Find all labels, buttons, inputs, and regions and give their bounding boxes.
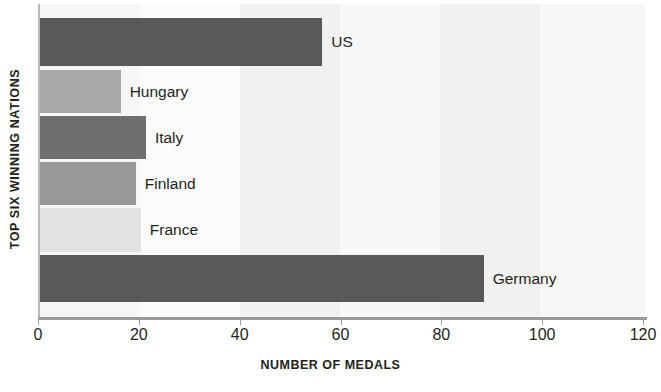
- bar-us[interactable]: [40, 18, 322, 66]
- x-tick-label: 60: [332, 326, 350, 344]
- bar-label-italy: Italy: [155, 129, 183, 147]
- x-tick-mark: [38, 317, 39, 325]
- bar-row: France: [40, 208, 645, 252]
- bar-label-hungary: Hungary: [130, 83, 189, 101]
- bar-france[interactable]: [40, 208, 141, 252]
- x-tick-mark: [643, 317, 644, 325]
- bar-row: Germany: [40, 255, 645, 302]
- x-tick-mark: [441, 317, 442, 325]
- bar-italy[interactable]: [40, 116, 146, 159]
- x-tick-mark: [542, 317, 543, 325]
- bar-row: US: [40, 18, 645, 66]
- bar-row: Italy: [40, 116, 645, 159]
- x-tick-label: 80: [432, 326, 450, 344]
- bar-label-finland: Finland: [145, 175, 196, 193]
- bar-row: Hungary: [40, 70, 645, 113]
- x-tick-label: 20: [130, 326, 148, 344]
- bar-germany[interactable]: [40, 255, 484, 302]
- x-tick-mark: [139, 317, 140, 325]
- x-axis-line: [38, 317, 647, 320]
- bar-label-germany: Germany: [493, 270, 557, 288]
- x-tick-mark: [341, 317, 342, 325]
- bar-row: Finland: [40, 162, 645, 205]
- x-tick-label: 100: [529, 326, 556, 344]
- bar-label-us: US: [331, 33, 353, 51]
- x-tick-label: 0: [34, 326, 43, 344]
- bar-chart: TOP SIX WINNING NATIONS US Hungary Italy…: [0, 0, 661, 392]
- y-axis-title-text: TOP SIX WINNING NATIONS: [8, 69, 22, 249]
- bar-label-france: France: [150, 221, 198, 239]
- bar-hungary[interactable]: [40, 70, 121, 113]
- x-tick-label: 40: [231, 326, 249, 344]
- x-tick-mark: [240, 317, 241, 325]
- bar-finland[interactable]: [40, 162, 136, 205]
- y-axis-title: TOP SIX WINNING NATIONS: [0, 0, 30, 318]
- x-tick-label: 120: [630, 326, 657, 344]
- x-axis-title: NUMBER OF MEDALS: [0, 358, 661, 372]
